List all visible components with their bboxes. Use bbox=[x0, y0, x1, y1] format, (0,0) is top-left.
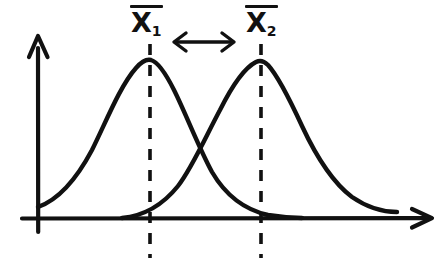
distribution-plot-canvas bbox=[0, 0, 442, 267]
distribution-figure: X1 X2 bbox=[0, 0, 442, 267]
horizontal-axis bbox=[22, 209, 432, 228]
mean1-subscript: 1 bbox=[152, 24, 162, 38]
mean1-letter: X bbox=[131, 9, 152, 36]
mean1-label: X1 bbox=[131, 9, 162, 38]
mean2-label: X2 bbox=[246, 9, 277, 38]
mean2-symbol: X2 bbox=[246, 9, 277, 38]
mean1-symbol: X1 bbox=[131, 9, 162, 38]
double-headed-arrow bbox=[174, 33, 234, 51]
mean2-overbar bbox=[245, 5, 278, 8]
mean1-overbar bbox=[130, 5, 163, 8]
mean2-letter: X bbox=[246, 9, 267, 36]
mean2-subscript: 2 bbox=[267, 24, 277, 38]
